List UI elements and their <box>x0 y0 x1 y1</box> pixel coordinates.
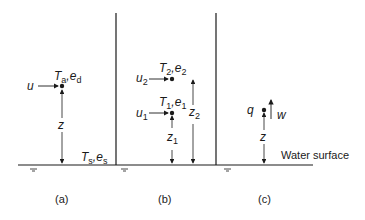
humidity-label: q <box>247 104 254 116</box>
label-sub: a <box>61 75 66 85</box>
label-sub: 1 <box>143 112 148 122</box>
label-sub: 1 <box>181 101 186 111</box>
surface-vars-label: Ts,es <box>81 151 107 163</box>
label-sub: s <box>103 156 108 166</box>
height-label-c: z <box>260 131 266 143</box>
label-sub: 1 <box>166 101 171 111</box>
point-label-a: Ta,ed <box>54 70 81 82</box>
water-level-symbol-c <box>224 169 231 171</box>
vertical-velocity-label: w <box>277 109 286 121</box>
measurement-point-b1 <box>170 111 174 115</box>
label-var: e <box>96 150 103 164</box>
label-var: u <box>136 106 143 120</box>
label-sub: 2 <box>195 111 200 121</box>
label-var: u <box>136 71 143 85</box>
caption-b: (b) <box>158 194 171 205</box>
water-surface-label: Water surface <box>281 150 349 161</box>
height-label-a: z <box>58 119 64 131</box>
label-sub: 1 <box>173 136 178 146</box>
label-sub: 2 <box>143 77 148 87</box>
caption-a: (a) <box>55 194 68 205</box>
label-sub: s <box>88 156 93 166</box>
label-sub: 2 <box>181 67 186 77</box>
caption-c: (c) <box>258 194 271 205</box>
lower-wind-label-b: u1 <box>136 107 148 119</box>
label-sub: d <box>76 75 81 85</box>
lower-point-label-b: T1,e1 <box>159 96 186 108</box>
measurement-point-c <box>262 108 266 112</box>
label-sub: 2 <box>166 67 171 77</box>
water-level-symbol-b <box>121 169 128 171</box>
upper-point-label-b: T2,e2 <box>159 62 186 74</box>
upper-height-label-b: z2 <box>189 106 200 118</box>
measurement-point-b2 <box>170 77 174 81</box>
wind-label-a: u <box>27 80 34 92</box>
upper-wind-label-b: u2 <box>136 72 148 84</box>
water-level-symbol-a <box>30 169 37 171</box>
lower-height-label-b: z1 <box>167 131 178 143</box>
